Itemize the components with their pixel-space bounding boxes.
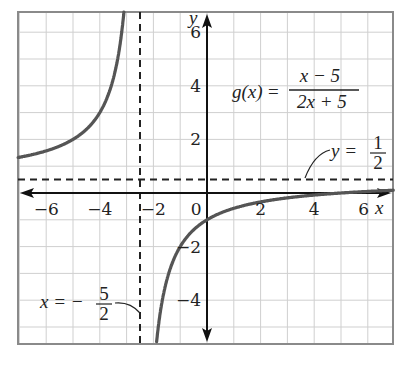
y-tick-label: −4 (176, 290, 201, 310)
y-axis-label: y (187, 7, 198, 28)
x-tick-label: −4 (87, 199, 112, 219)
x-axis-label: x (374, 197, 384, 218)
h-asym-num: 1 (373, 132, 383, 153)
y-tick-label: −2 (176, 237, 201, 257)
equals-sign: = (268, 81, 279, 102)
x-tick-label: 6 (358, 199, 369, 219)
function-denominator: 2x + 5 (297, 91, 347, 112)
v-asym-num: 5 (99, 283, 109, 304)
x-tick-label: 0 (191, 199, 202, 219)
y-tick-label: 4 (190, 76, 201, 96)
rational-function-graph: −6−4−20246642−2−4 x y g(x) = x − 5 2x + … (0, 0, 412, 365)
function-lhs: g(x) (232, 81, 263, 103)
x-tick-label: −6 (34, 199, 59, 219)
left-branch-curve (18, 12, 124, 157)
v-asym-lhs: x = − (39, 291, 84, 312)
h-asym-den: 2 (373, 152, 383, 173)
vertical-asymptote-label: x = − 5 2 (39, 283, 140, 324)
x-tick-label: 2 (255, 199, 266, 219)
x-tick-label: 4 (309, 199, 320, 219)
x-tick-label: −2 (141, 199, 166, 219)
y-tick-label: 2 (190, 129, 201, 149)
v-asym-den: 2 (99, 303, 109, 324)
leader-line (115, 303, 140, 313)
h-asym-lhs: y = (329, 140, 357, 161)
leader-line (305, 150, 330, 178)
function-numerator: x − 5 (299, 65, 340, 86)
function-label: g(x) = x − 5 2x + 5 (232, 65, 359, 112)
